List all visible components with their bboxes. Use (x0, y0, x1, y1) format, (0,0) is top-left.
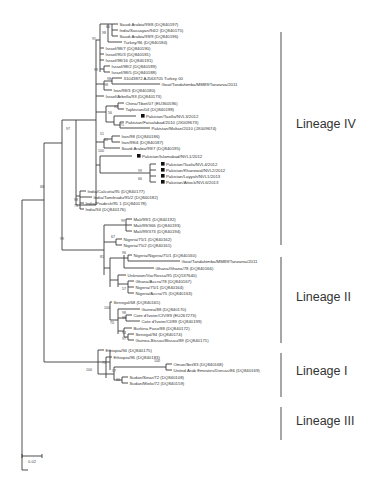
bootstrap-value: 95 (92, 37, 96, 41)
bootstrap-value: 98 (122, 311, 126, 315)
leaf-label: Saudi Arabia/99/8 (DQ840197) (120, 22, 179, 27)
leaf-label: Nigeria/75/1 (DQ840164) (136, 285, 185, 290)
leaf-label: Pakistan/Layyah/NVL1/2013 (166, 174, 221, 179)
leaf-label: Guinea-Bissau/Bissau/89 (DQ840171) (136, 338, 210, 343)
bootstrap-value: 98 (74, 198, 78, 202)
leaf-label: Saudi Arabia/99/7 (DQ840195) (122, 146, 181, 151)
leaf-label: Pakistan/Khanewal/NVL2/2012 (166, 168, 226, 173)
bootstrap-value: 96 (122, 251, 126, 255)
leaf-label: Pakistan/Faisalabad/2010 (JX009673) (126, 120, 199, 125)
leaf-label: Israel/98/7 (DQ840190) (106, 46, 151, 51)
square-marker-icon (161, 168, 165, 172)
leaf-label: Nigeria/Accra/75 (DQ840163) (136, 291, 193, 296)
leaf-label: Mali/99/373 (DQ840194) (134, 229, 182, 234)
leaf-label: Unknown/VacRossa/95 (DQ537640) (128, 273, 198, 278)
leaf-label: Israel/98/2 (DQ840189) (112, 64, 157, 69)
leaf-label: Israel/98/16 (DQ840191) (106, 58, 154, 63)
bootstrap-value: 100 (104, 306, 110, 310)
bootstrap-value: 71 (120, 123, 124, 127)
bootstrap-value: 100 (98, 149, 104, 153)
leaf-label: Saudi Arabia/99/9 (DQ840196) (120, 34, 179, 39)
leaf-label: Burkina Faso/88 (DQ840172) (134, 326, 191, 331)
leaf-label: Goat/Tandahimba/MM89/Tanzania/2011 (162, 82, 238, 87)
leaf-label: Pakistan/Multan/2010 (JX009674) (152, 126, 217, 131)
leaf-label: United Arab Emirates/Dorcas/86 (DQ840169… (174, 368, 261, 373)
square-marker-icon (137, 154, 141, 158)
bootstrap-value: 57 (122, 287, 126, 291)
leaf-label: Pakistan/Islamabad/NVL1/2012 (142, 154, 203, 159)
leaf-label: Ghana/Accra/78 (DQ840167) (136, 279, 192, 284)
bootstrap-value: 98 (102, 31, 106, 35)
bootstrap-value: 92 (114, 105, 118, 109)
bootstrap-value: 56 (108, 111, 112, 115)
leaf-label: Israel/95/3 (DQ840181) (106, 52, 151, 57)
leaf-label: China/Tibet/07 (EU360596) (126, 101, 179, 106)
bootstrap-value: 97 (122, 337, 126, 341)
leaf-label: India/Pradesh/95 1 (DQ840178) (86, 201, 147, 206)
leaf-label: Pakistan/Taxila/NVL4/2012 (166, 162, 218, 167)
leaf-label: Pakistan/Attock/NVL6/2013 (166, 180, 219, 185)
leaf-label: Iran/98/4 (DQ840187) (122, 140, 164, 145)
bootstrap-value: 99 (138, 169, 142, 173)
leaf-label: Senegal/94 (DQ840174) (136, 332, 183, 337)
bootstrap-value: 57 (112, 369, 116, 373)
phylogenetic-tree: 0.02 Saudi Arabia/99/8 (DQ840197)India/S… (0, 0, 389, 480)
leaf-label: Iran/98/3 (DQ840180) (114, 88, 156, 93)
bootstrap-value: 97 (66, 127, 70, 131)
bootstrap-value: 100 (86, 368, 92, 372)
lineage-annotations: Lineage IVLineage IILineage ILineage III (281, 32, 356, 440)
scale-bar: 0.02 (22, 454, 42, 464)
bootstrap-value: 100 (154, 359, 160, 363)
scale-bar-label: 0.02 (28, 459, 37, 464)
square-marker-icon (141, 114, 145, 118)
bootstrap-value: 99 (121, 219, 125, 223)
leaf-label: Oman/Ibri/83 (DQ840168) (174, 362, 224, 367)
leaf-label: Ghana/Ghana/78 (DQ840166) (156, 266, 214, 271)
bootstrap-value: 98 (107, 77, 111, 81)
leaf-label: Iran/98 (DQ840186) (122, 134, 161, 139)
bootstrap-value: 99 (60, 237, 64, 241)
square-marker-icon (161, 180, 165, 184)
leaf-label: Nigeria/75/1 (DQ840162) (124, 237, 173, 242)
square-marker-icon (161, 162, 165, 166)
bootstrap-value: 99 (94, 68, 98, 72)
leaf-label: Sudan/Mielo/72 (DQ840159) (130, 381, 185, 386)
bootstrap-value: 70 (110, 321, 114, 325)
leaf-label: India/Sassayan/94/2 (DQ840175) (120, 28, 184, 33)
bootstrap-value: 66 (116, 378, 120, 382)
leaf-labels: Saudi Arabia/99/8 (DQ840197)India/Sassay… (86, 22, 261, 386)
leaf-label: Cote d'Ivoire/CI/89 (DQ840199) (142, 319, 203, 324)
leaf-label: India/Tamilnadu/95/2 (DQ840182) (94, 195, 159, 200)
bootstrap-value: 99 (122, 316, 126, 320)
bootstrap-value: 51 (100, 132, 104, 136)
leaf-label: India/Calcutta/95 (DQ840177) (88, 189, 146, 194)
bootstrap-value: 66 (138, 177, 142, 181)
bootstrap-value: 94 (122, 331, 126, 335)
leaf-label: Nigeria/Nigeria/75/1 (DQ840160) (134, 253, 197, 258)
leaf-label: Goat/Tandahimba/MM89/Tanzania/2011 (182, 259, 258, 264)
leaf-label: Ethiopia/94 (DQ840175) (106, 348, 153, 353)
bootstrap-value: 68 (40, 185, 44, 189)
leaf-label: Israel/98/5 (DQ840188) (112, 70, 157, 75)
leaf-label: Senegal/68 (DQ840165) (114, 300, 161, 305)
bootstrap-value: 81 (100, 255, 104, 259)
leaf-label: Nigeria/75/2 (DQ840161) (124, 243, 173, 248)
leaf-label: Pakistan/Taxilla/NVL3/2012 (146, 114, 199, 119)
bootstrap-value: 61 (104, 138, 108, 142)
leaf-label: Cote d'Ivoire/CIV/89 (EU267273) (134, 313, 197, 318)
lineage-label: Lineage II (296, 290, 351, 304)
leaf-label: 31043872 AJ563705 Turkey 00 (124, 76, 184, 81)
leaf-label: Israel/Arbella/93 (DQ840173) (106, 94, 162, 99)
leaf-label: India/94 (DQ840176) (86, 207, 127, 212)
leaf-label: Guinea/88 (DQ840170) (142, 307, 187, 312)
lineage-label: Lineage I (296, 364, 347, 378)
bootstrap-value: 67 (111, 235, 115, 239)
leaf-label: Mali/99/366 (DQ840193) (134, 223, 182, 228)
leaf-label: Turkey/96 (DQ840184) (124, 40, 168, 45)
leaf-label: Mali/99/1 (DQ840192) (134, 217, 177, 222)
lineage-label: Lineage IV (296, 117, 356, 131)
bootstrap-value: 98 (104, 83, 108, 87)
bootstrap-value: 71 (102, 361, 106, 365)
lineage-label: Lineage III (296, 414, 354, 428)
bootstrap-value: 66 (106, 25, 110, 29)
